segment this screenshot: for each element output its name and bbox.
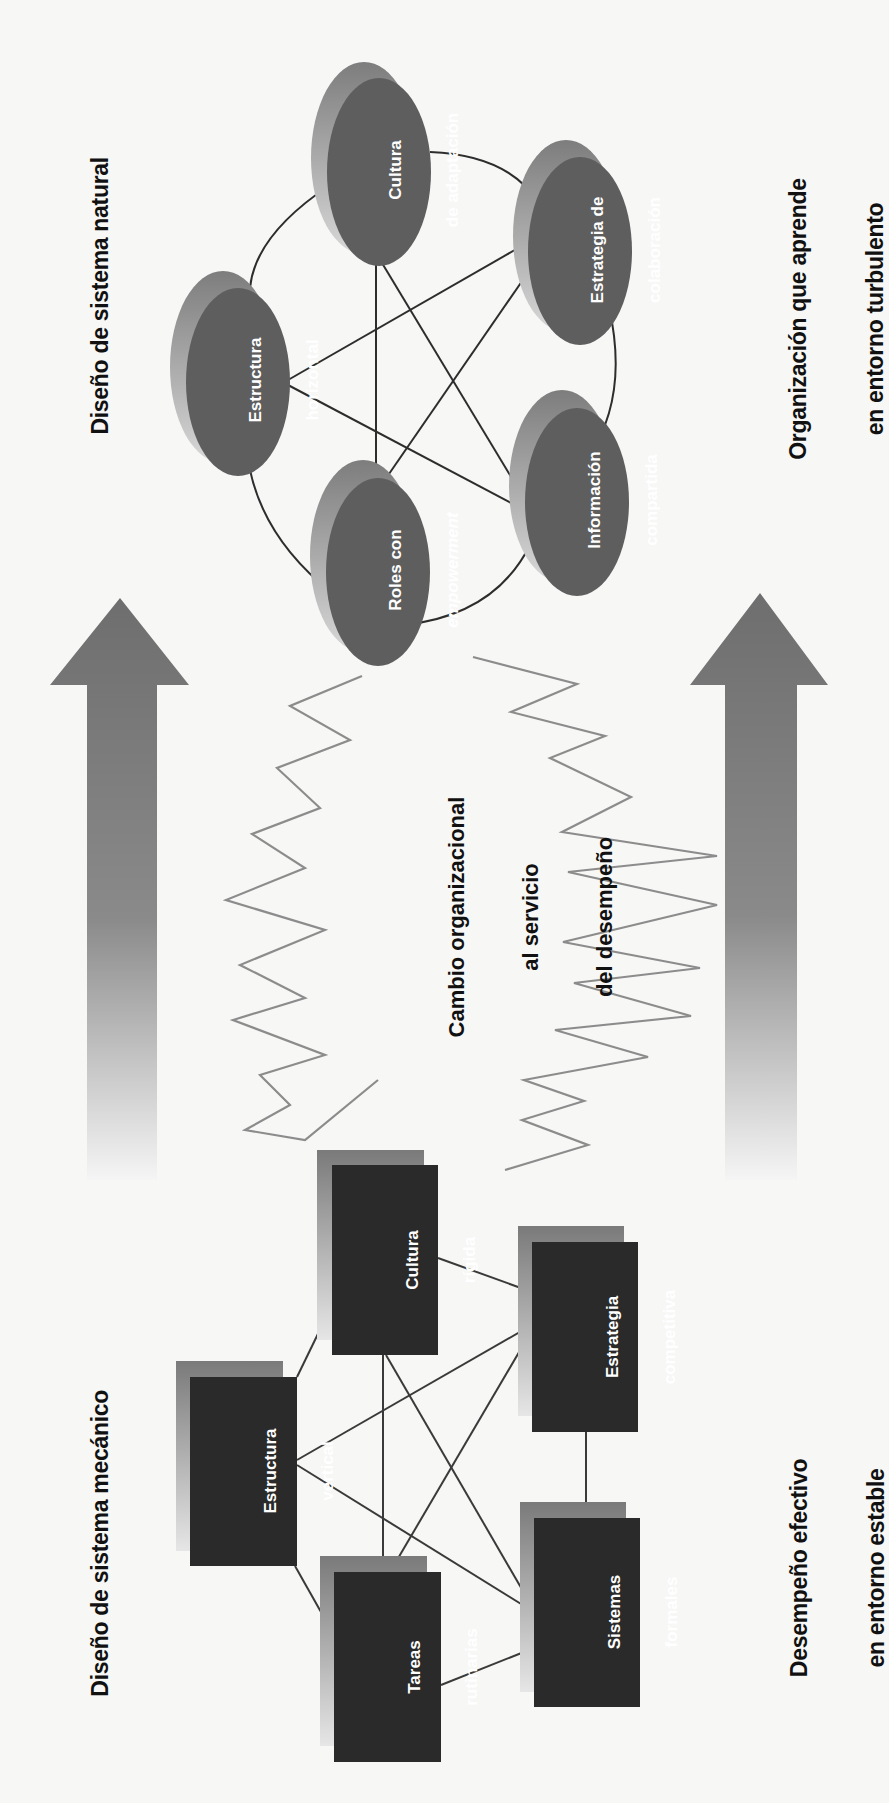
label-estrategia-competitiva: Estrategia competitiva xyxy=(565,1272,717,1402)
label-estructura-vertical: Estructura vertical xyxy=(223,1406,375,1536)
center-line-2: al servicio xyxy=(519,767,544,1067)
label-cultura-rigida: Cultura rígida xyxy=(365,1195,517,1325)
left-arrow xyxy=(50,598,189,1180)
heading-line-2: en entorno estable xyxy=(864,1358,889,1778)
label-line: empowerment xyxy=(443,490,462,650)
heading-line-1: Desempeño efectivo xyxy=(787,1358,813,1778)
label-line: Sistemas xyxy=(605,1547,624,1677)
label-sistemas-formales: Sistemas formales xyxy=(567,1547,719,1677)
label-cultura-adaptacion: Cultura de adaptación xyxy=(348,90,500,250)
label-line: Información xyxy=(585,420,604,580)
heading-effective-performance: Desempeño efectivo en entorno estable xyxy=(735,1358,889,1778)
label-line: Estructura xyxy=(246,300,265,460)
label-line: competitiva xyxy=(660,1272,679,1402)
heading-line-2: en entorno turbulento xyxy=(863,124,889,514)
label-line: colaboración xyxy=(645,170,664,330)
label-line: Cultura xyxy=(403,1195,422,1325)
heading-natural-system-design: Diseño de sistema natural xyxy=(62,88,139,528)
label-roles-empowerment: Roles con empowerment xyxy=(348,490,500,650)
label-line: rutinarias xyxy=(462,1602,481,1732)
label-informacion-compartida: Información compartida xyxy=(547,420,699,580)
label-line: formales xyxy=(662,1547,681,1677)
label-line: horizontal xyxy=(303,300,322,460)
label-tareas-rutinarias: Tareas rutinarias xyxy=(367,1602,519,1732)
label-line: compartida xyxy=(642,420,661,580)
label-line: Tareas xyxy=(405,1602,424,1732)
heading-text: Diseño de sistema natural xyxy=(87,157,113,435)
label-line: Estrategia de xyxy=(588,170,607,330)
label-line: Estructura xyxy=(261,1406,280,1536)
label-line: de adaptación xyxy=(443,90,462,250)
label-line: Estrategia xyxy=(603,1272,622,1402)
label-line: rígida xyxy=(460,1195,479,1325)
center-label-organizational-change: Cambio organizacional al servicio del de… xyxy=(396,767,667,1067)
center-line-3: del desempeño xyxy=(593,767,618,1067)
heading-learning-organization: Organización que aprende en entorno turb… xyxy=(734,124,889,514)
heading-mechanical-system-design: Diseño de sistema mecánico xyxy=(62,1328,139,1783)
center-line-1: Cambio organizacional xyxy=(445,767,470,1067)
label-line: Roles con xyxy=(386,490,405,650)
label-line: vertical xyxy=(318,1406,337,1536)
label-estrategia-colaboracion: Estrategia de colaboración xyxy=(550,170,702,330)
zigzag-left xyxy=(226,676,378,1140)
heading-text: Diseño de sistema mecánico xyxy=(87,1390,113,1697)
label-line: Cultura xyxy=(386,90,405,250)
heading-line-1: Organización que aprende xyxy=(786,124,812,514)
label-estructura-horizontal: Estructura horizontal xyxy=(208,300,360,460)
right-arrow xyxy=(690,593,828,1180)
